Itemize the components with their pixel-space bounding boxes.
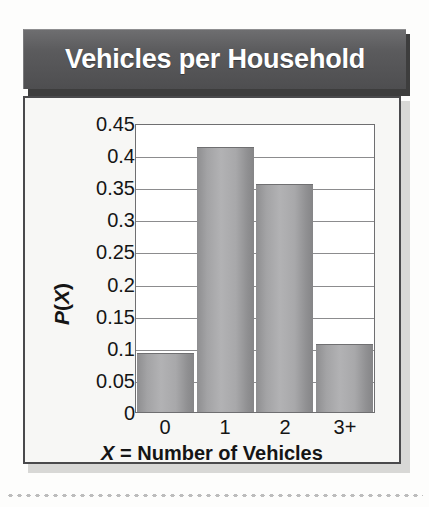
x-axis-tick-label: 2 — [255, 416, 315, 444]
y-axis-tick-labels: 0.450.40.350.30.250.20.150.10.050 — [59, 98, 135, 462]
bar-slot — [196, 125, 256, 412]
y-axis-tick-label: 0.05 — [59, 369, 135, 392]
x-axis-tick-label: 0 — [135, 416, 195, 444]
y-axis-tick-label: 0.15 — [59, 305, 135, 328]
x-axis-tick-label: 3+ — [315, 416, 375, 444]
bar[interactable] — [316, 344, 373, 412]
x-axis-label: X = Number of Vehicles — [25, 442, 399, 465]
y-axis-tick-label: 0.4 — [59, 145, 135, 168]
x-axis-tick-labels: 0123+ — [135, 416, 375, 444]
x-axis-tick-label: 1 — [195, 416, 255, 444]
y-axis-tick-label: 0.1 — [59, 337, 135, 360]
x-axis-label-variable: X — [101, 442, 114, 464]
y-axis-tick-label: 0.3 — [59, 209, 135, 232]
y-axis-tick-label: 0 — [59, 402, 135, 425]
bottom-dotted-divider — [6, 494, 423, 497]
bar-slot — [315, 125, 375, 412]
bar[interactable] — [137, 353, 194, 412]
figure-card: Vehicles per Household P(X) 0.450.40.350… — [0, 0, 429, 507]
y-axis-tick-label: 0.45 — [59, 113, 135, 136]
plot-wrapper: P(X) 0.450.40.350.30.250.20.150.10.050 0… — [25, 98, 399, 462]
bar-slot — [136, 125, 196, 412]
y-axis-tick-label: 0.2 — [59, 273, 135, 296]
chart-title: Vehicles per Household — [65, 44, 365, 75]
bar-series — [136, 125, 374, 412]
x-axis-label-rest: = Number of Vehicles — [114, 442, 322, 464]
title-banner: Vehicles per Household — [23, 29, 406, 89]
y-axis-tick-label: 0.35 — [59, 177, 135, 200]
chart-body: P(X) 0.450.40.350.30.250.20.150.10.050 0… — [23, 96, 401, 464]
y-axis-tick-label: 0.25 — [59, 241, 135, 264]
bar-slot — [255, 125, 315, 412]
plot-area — [135, 124, 375, 413]
bar[interactable] — [197, 147, 254, 412]
bar[interactable] — [256, 184, 313, 412]
